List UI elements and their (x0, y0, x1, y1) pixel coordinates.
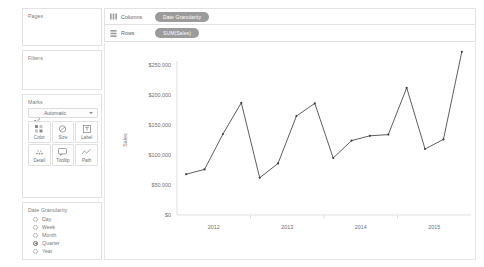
y-tick-label: $0 (165, 212, 171, 218)
y-axis-ticks: $0$50,000$100,000$150,000$200,000$250,00… (149, 62, 171, 218)
marks-color-button[interactable]: Color (28, 121, 51, 143)
radio-icon[interactable] (33, 249, 38, 254)
x-tick-label: 2015 (428, 224, 440, 230)
marks-tooltip-label: Tooltip (56, 158, 69, 163)
date-granularity-card[interactable]: Date Granularity Day Week Month Quarter (22, 202, 102, 260)
granularity-label-day: Day (42, 215, 51, 223)
path-line-icon (82, 148, 91, 157)
date-granularity-title: Date Granularity (23, 203, 101, 214)
data-point[interactable] (369, 135, 371, 137)
columns-icon (110, 13, 117, 20)
marks-size-button[interactable]: Size (52, 121, 75, 143)
y-axis-title: Sales (122, 133, 128, 147)
marks-tooltip-button[interactable]: Tooltip (52, 144, 75, 166)
pages-card-title: Pages (23, 9, 101, 20)
marks-path-button[interactable]: Path (75, 144, 98, 166)
y-tick-label: $50,000 (152, 182, 172, 188)
rows-shelf[interactable]: Rows SUM(Sales) (104, 25, 476, 42)
pages-card[interactable]: Pages (22, 8, 102, 46)
granularity-option-week[interactable]: Week (30, 223, 100, 231)
automatic-line-icon (33, 110, 41, 116)
data-point[interactable] (222, 133, 224, 135)
mark-type-dropdown[interactable]: Automatic (28, 108, 98, 118)
left-sidebar: Pages Filters Marks Automatic (22, 8, 102, 260)
granularity-label-year: Year (42, 247, 52, 255)
data-point[interactable] (259, 177, 261, 179)
detail-dots-icon (35, 148, 44, 157)
data-point[interactable] (332, 157, 334, 159)
radio-icon-selected[interactable] (33, 241, 38, 246)
y-tick-label: $150,000 (149, 122, 171, 128)
label-text-icon (83, 125, 91, 134)
data-point[interactable] (442, 138, 444, 140)
date-granularity-options: Day Week Month Quarter Year (30, 215, 100, 255)
marks-path-label: Path (82, 158, 91, 163)
data-point[interactable] (240, 102, 242, 104)
tooltip-bubble-icon (58, 148, 67, 157)
granularity-label-week: Week (42, 223, 55, 231)
marks-detail-button[interactable]: Detail (28, 144, 51, 166)
marks-label-label: Label (81, 135, 92, 140)
sales-line-chart: Sales $0$50,000$100,000$150,000$200,000$… (105, 43, 476, 259)
marks-size-label: Size (59, 135, 68, 140)
marks-card-title: Marks (23, 95, 101, 106)
data-point[interactable] (406, 87, 408, 89)
granularity-option-quarter[interactable]: Quarter (30, 239, 100, 247)
y-tick-label: $100,000 (149, 152, 171, 158)
data-point[interactable] (185, 173, 187, 175)
chevron-down-icon[interactable] (89, 112, 93, 114)
sales-series-line (186, 52, 462, 178)
data-point[interactable] (461, 51, 463, 53)
radio-icon[interactable] (33, 225, 38, 230)
data-point[interactable] (350, 140, 352, 142)
granularity-label-quarter: Quarter (42, 239, 60, 247)
size-circle-icon (58, 125, 67, 134)
sales-data-points (185, 51, 463, 179)
marks-label-button[interactable]: Label (75, 121, 98, 143)
data-point[interactable] (387, 134, 389, 136)
data-point[interactable] (314, 102, 316, 104)
filters-card[interactable]: Filters (22, 50, 102, 90)
viz-pane[interactable]: Sales $0$50,000$100,000$150,000$200,000$… (104, 43, 476, 260)
radio-icon[interactable] (33, 217, 38, 222)
axis-lines (177, 61, 471, 219)
color-squares-icon (35, 125, 43, 134)
x-tick-label: 2012 (208, 224, 220, 230)
rows-shelf-label: Rows (121, 30, 151, 36)
columns-shelf[interactable]: Columns Date Granularity (104, 8, 476, 25)
y-tick-label: $250,000 (149, 62, 171, 68)
pill-date-granularity[interactable]: Date Granularity (155, 12, 209, 22)
data-point[interactable] (424, 148, 426, 150)
granularity-option-month[interactable]: Month (30, 231, 100, 239)
y-axis-title-text: Sales (122, 133, 128, 147)
granularity-label-month: Month (42, 231, 56, 239)
x-tick-label: 2013 (281, 224, 293, 230)
granularity-option-year[interactable]: Year (30, 247, 100, 255)
y-tick-label: $200,000 (149, 92, 171, 98)
mark-type-label: Automatic (44, 110, 89, 116)
radio-icon[interactable] (33, 233, 38, 238)
filters-card-title: Filters (23, 51, 101, 62)
x-axis-ticks: 2012201320142015 (208, 224, 441, 230)
granularity-option-day[interactable]: Day (30, 215, 100, 223)
marks-detail-label: Detail (33, 158, 45, 163)
rows-icon (110, 30, 117, 37)
pill-sum-sales[interactable]: SUM(Sales) (155, 28, 199, 38)
marks-buttons: Color Size (28, 121, 98, 166)
tableau-worksheet: Pages Filters Marks Automatic (0, 0, 484, 267)
marks-color-label: Color (34, 135, 45, 140)
columns-shelf-label: Columns (121, 14, 151, 20)
data-point[interactable] (295, 115, 297, 117)
data-point[interactable] (277, 162, 279, 164)
marks-card[interactable]: Marks Automatic (22, 94, 102, 198)
data-point[interactable] (203, 168, 205, 170)
x-tick-label: 2014 (355, 224, 367, 230)
shelves-area: Columns Date Granularity Rows SUM(Sales) (104, 8, 476, 42)
